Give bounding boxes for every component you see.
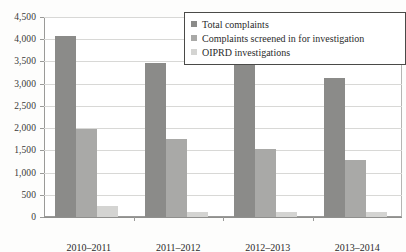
y-axis-tick-label: 3,500 [0, 57, 36, 67]
y-axis-tick-label: 1,000 [0, 169, 36, 179]
y-axis-tick-label: 1,500 [0, 146, 36, 156]
x-axis-label: 2013–2014 [312, 243, 402, 252]
legend-item[interactable]: Total complaints [191, 17, 397, 31]
x-axis-tick-mark [313, 217, 314, 221]
y-axis-tick-label: 500 [0, 191, 36, 201]
legend-item[interactable]: Complaints screened in for investigation [191, 31, 397, 45]
legend-swatch-screened-in-icon [191, 35, 197, 41]
x-axis-tick-mark [223, 217, 224, 221]
legend-swatch-total-complaints-icon [191, 21, 197, 27]
bar-chart: 4,5004,0003,5003,0002,5002,0001,5001,000… [0, 0, 406, 252]
legend-item[interactable]: OIPRD investigations [191, 45, 397, 59]
legend-item-label: Complaints screened in for investigation [202, 33, 364, 44]
y-axis-tick-label: 2,500 [0, 102, 36, 112]
x-axis-label: 2010–2011 [44, 243, 134, 252]
y-axis-tick-label: 3,000 [0, 80, 36, 90]
y-axis-tick-label: 2,000 [0, 124, 36, 134]
legend-item-label: OIPRD investigations [202, 47, 290, 58]
y-axis-tick-label: 0 [0, 213, 36, 223]
x-axis-tick-mark [134, 217, 135, 221]
y-axis-tick-label: 4,000 [0, 35, 36, 45]
chart-legend: Total complaintsComplaints screened in f… [184, 12, 406, 65]
y-axis-tick-label: 4,500 [0, 13, 36, 23]
legend-item-label: Total complaints [202, 19, 269, 30]
legend-swatch-oiprd-investigations-icon [191, 49, 197, 55]
x-axis-label: 2012–2013 [223, 243, 313, 252]
y-axis-tick-mark [40, 217, 44, 218]
x-axis-label: 2011–2012 [133, 243, 223, 252]
